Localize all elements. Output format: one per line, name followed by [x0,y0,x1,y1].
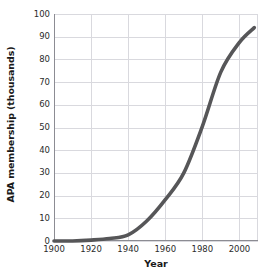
y-tick-label: 60 [24,100,50,109]
x-tick-label: 1920 [71,244,111,254]
y-axis-tick-labels: 0102030405060708090100 [22,0,50,279]
chart-figure: APA membership (thousands) 0102030405060… [0,0,272,279]
y-tick-label: 40 [24,146,50,155]
y-axis-title-text: APA membership (thousands) [5,46,16,202]
y-tick-label: 30 [24,168,50,177]
x-tick-label: 1960 [145,244,185,254]
y-tick-label: 80 [24,55,50,64]
x-tick-label: 2000 [219,244,259,254]
y-tick-label: 90 [24,32,50,41]
x-tick-label: 1940 [108,244,148,254]
series-path [54,28,254,241]
y-tick-label: 100 [24,10,50,19]
x-tick-label: 1900 [34,244,74,254]
x-axis-tick-labels: 190019201940196019802000 [54,244,258,258]
y-tick-label: 50 [24,123,50,132]
x-axis-title: Year [54,258,258,269]
y-axis-title: APA membership (thousands) [0,0,20,248]
data-series-line [54,14,258,241]
x-tick-label: 1980 [182,244,222,254]
y-tick-label: 20 [24,191,50,200]
y-tick-label: 70 [24,78,50,87]
plot-area [54,14,258,241]
y-tick-label: 10 [24,214,50,223]
